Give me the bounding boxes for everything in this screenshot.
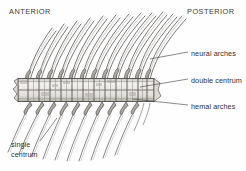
- leader-hemal-arches: [133, 99, 188, 105]
- label-neural-arches: neural arches: [191, 49, 236, 58]
- label-single-centrum-line1: single: [11, 140, 38, 150]
- label-hemal-arches: hemal arches: [191, 102, 235, 111]
- posterior-orientation-label: POSTERIOR: [187, 7, 235, 16]
- label-single-centrum: single centrum: [11, 140, 38, 159]
- figure-plate: ANTERIOR POSTERIOR neural arches double …: [0, 0, 246, 171]
- label-single-centrum-line2: centrum: [11, 150, 38, 160]
- anterior-orientation-label: ANTERIOR: [9, 7, 51, 16]
- vertebral-column-band: [13, 79, 161, 102]
- label-double-centrum: double centrum: [191, 76, 242, 85]
